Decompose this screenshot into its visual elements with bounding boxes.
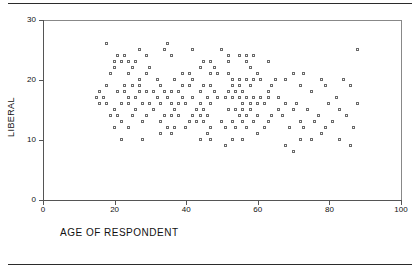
data-point xyxy=(216,72,219,75)
data-point xyxy=(181,84,184,87)
data-point xyxy=(202,84,205,87)
data-point xyxy=(159,84,162,87)
data-point xyxy=(206,96,209,99)
data-point xyxy=(224,126,227,129)
data-point xyxy=(256,72,259,75)
data-point xyxy=(320,78,323,81)
data-point xyxy=(131,84,134,87)
data-point xyxy=(231,138,234,141)
data-point xyxy=(284,102,287,105)
data-point xyxy=(98,102,101,105)
data-point xyxy=(345,114,348,117)
data-point xyxy=(267,96,270,99)
data-point xyxy=(259,96,262,99)
data-point xyxy=(134,108,137,111)
data-point xyxy=(245,96,248,99)
data-point xyxy=(148,102,151,105)
data-point xyxy=(170,102,173,105)
data-point xyxy=(263,126,266,129)
data-point xyxy=(231,96,234,99)
y-axis-title: LIBERAL xyxy=(6,72,16,162)
data-point xyxy=(127,96,130,99)
data-point xyxy=(249,102,252,105)
data-point xyxy=(159,120,162,123)
data-point xyxy=(141,120,144,123)
data-point xyxy=(249,84,252,87)
data-point xyxy=(302,72,305,75)
data-point xyxy=(252,96,255,99)
data-point xyxy=(338,138,341,141)
data-point xyxy=(299,138,302,141)
data-point xyxy=(252,78,255,81)
data-point xyxy=(274,78,277,81)
data-point xyxy=(231,78,234,81)
data-point xyxy=(152,90,155,93)
data-point xyxy=(292,108,295,111)
data-point xyxy=(356,102,359,105)
data-point xyxy=(156,78,159,81)
data-point xyxy=(131,66,134,69)
data-point xyxy=(267,90,270,93)
data-point xyxy=(120,102,123,105)
data-point xyxy=(245,114,248,117)
data-point xyxy=(113,126,116,129)
data-point xyxy=(227,60,230,63)
data-point xyxy=(270,84,273,87)
data-point xyxy=(199,66,202,69)
data-point xyxy=(209,84,212,87)
data-point xyxy=(256,132,259,135)
data-point xyxy=(245,54,248,57)
data-point xyxy=(206,114,209,117)
data-point xyxy=(288,126,291,129)
data-point xyxy=(131,114,134,117)
x-tick-label: 60 xyxy=(243,206,273,214)
data-point xyxy=(181,72,184,75)
data-point xyxy=(145,72,148,75)
data-point xyxy=(188,84,191,87)
data-point xyxy=(177,90,180,93)
data-point xyxy=(127,72,130,75)
x-axis-title: AGE OF RESPONDENT xyxy=(60,227,179,238)
data-point xyxy=(241,120,244,123)
data-point xyxy=(302,126,305,129)
data-point xyxy=(173,126,176,129)
x-tick-label: 20 xyxy=(100,206,130,214)
data-point xyxy=(127,102,130,105)
data-point xyxy=(317,114,320,117)
data-point xyxy=(277,96,280,99)
data-point xyxy=(206,132,209,135)
data-point xyxy=(220,120,223,123)
data-point xyxy=(116,54,119,57)
data-point xyxy=(152,108,155,111)
data-point xyxy=(120,138,123,141)
data-point xyxy=(120,120,123,123)
data-point xyxy=(145,114,148,117)
data-point xyxy=(356,48,359,51)
x-tick-label: 40 xyxy=(171,206,201,214)
data-point xyxy=(295,102,298,105)
data-point xyxy=(113,66,116,69)
data-point xyxy=(170,114,173,117)
data-point xyxy=(163,114,166,117)
data-point xyxy=(220,48,223,51)
data-point xyxy=(281,114,284,117)
data-point xyxy=(141,138,144,141)
data-point xyxy=(188,120,191,123)
data-point xyxy=(184,102,187,105)
data-point xyxy=(209,126,212,129)
data-point xyxy=(202,108,205,111)
data-point xyxy=(267,120,270,123)
data-point xyxy=(191,78,194,81)
data-point xyxy=(227,108,230,111)
data-point xyxy=(127,126,130,129)
data-point xyxy=(173,78,176,81)
x-axis-line xyxy=(43,200,402,201)
data-point xyxy=(209,72,212,75)
data-point xyxy=(349,144,352,147)
data-point xyxy=(191,114,194,117)
data-point xyxy=(245,60,248,63)
data-point xyxy=(227,54,230,57)
data-point xyxy=(138,84,141,87)
data-point xyxy=(113,108,116,111)
data-point xyxy=(170,54,173,57)
